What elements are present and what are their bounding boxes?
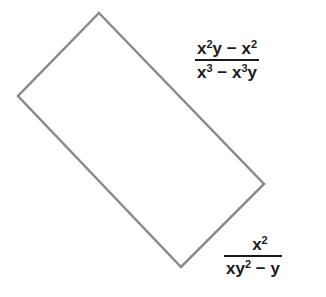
length-numerator: x2y − x2 [195,40,259,57]
width-expression: x2 xy2 − y [224,236,282,277]
width-numerator: x2 [238,236,268,253]
length-expression: x2y − x2 x3 − x3y [195,40,259,81]
fraction-bar [224,255,282,257]
fraction-bar [195,59,259,61]
width-denominator: xy2 − y [224,260,282,277]
length-denominator: x3 − x3y [195,64,259,81]
